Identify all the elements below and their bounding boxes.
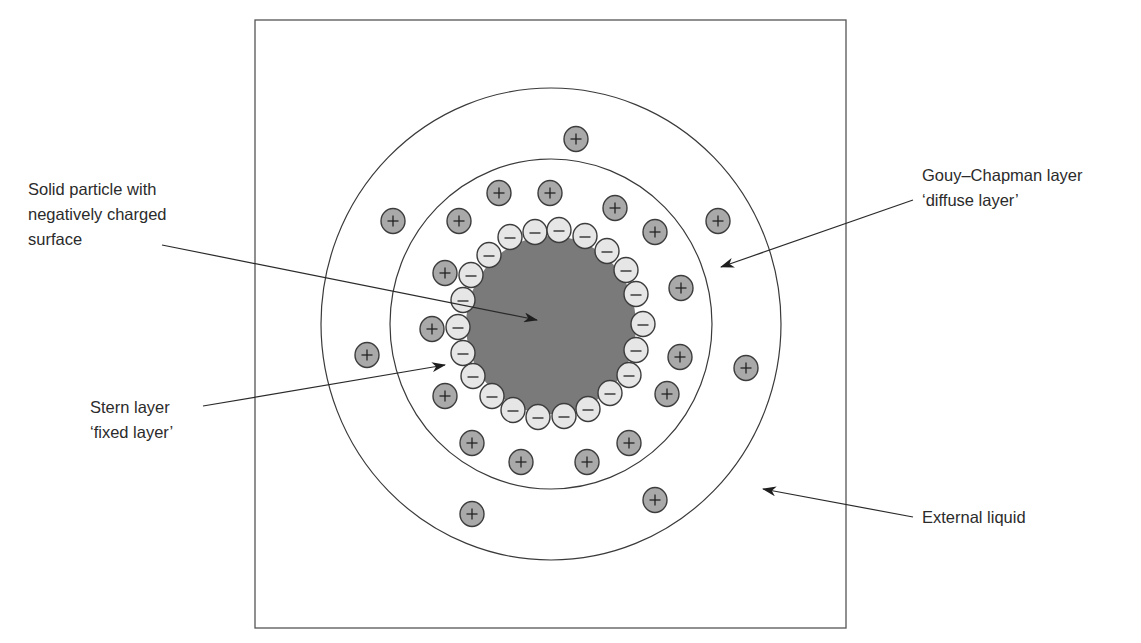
cation-icon xyxy=(381,209,405,234)
cation-icon xyxy=(460,431,484,456)
anion-icon xyxy=(480,384,504,409)
cation-icon xyxy=(617,431,641,456)
cation-icon xyxy=(433,261,457,286)
anion-icon xyxy=(446,315,470,340)
anion-icon xyxy=(576,397,600,422)
anion-icon xyxy=(573,224,597,249)
arrow-gouy-chapman-icon xyxy=(721,200,913,267)
arrow-external-liquid-icon xyxy=(763,489,913,517)
anion-icon xyxy=(498,225,522,250)
label-line: Solid particle with xyxy=(28,177,167,202)
cation-icon xyxy=(603,196,627,221)
cation-icon xyxy=(538,181,562,206)
anion-icon xyxy=(451,288,475,313)
anion-icon xyxy=(614,258,638,283)
label-external-liquid: External liquid xyxy=(922,505,1026,530)
label-line: External liquid xyxy=(922,505,1026,530)
cation-icon xyxy=(460,502,484,527)
label-line: Stern layer xyxy=(90,395,173,420)
anion-icon xyxy=(526,405,550,430)
label-line: negatively charged xyxy=(28,202,167,227)
cation-icon xyxy=(706,209,730,234)
anion-icon xyxy=(631,312,655,337)
anion-icon xyxy=(624,282,648,307)
cation-icon xyxy=(355,343,379,368)
anion-icon xyxy=(477,243,501,268)
arrow-stern-layer-icon xyxy=(203,365,445,406)
cation-icon xyxy=(669,276,693,301)
anion-icon xyxy=(547,218,571,243)
anion-icon xyxy=(501,398,525,423)
double-layer-diagram xyxy=(0,0,1141,643)
label-solid-particle: Solid particle with negatively charged s… xyxy=(28,177,167,252)
cation-icon xyxy=(447,209,471,234)
anion-icon xyxy=(523,220,547,245)
cation-icon xyxy=(564,127,588,152)
cation-icon xyxy=(668,345,692,370)
label-line: ‘diffuse layer’ xyxy=(922,188,1083,213)
cation-icon xyxy=(643,488,667,513)
anion-icon xyxy=(459,263,483,288)
cation-icon xyxy=(509,450,533,475)
anion-icon xyxy=(552,404,576,429)
cation-icon xyxy=(575,450,599,475)
anion-icon xyxy=(624,338,648,363)
cation-icon xyxy=(487,181,511,206)
cation-icon xyxy=(643,220,667,245)
cation-icon xyxy=(655,382,679,407)
label-gouy-chapman-layer: Gouy–Chapman layer ‘diffuse layer’ xyxy=(922,163,1083,213)
anion-icon xyxy=(595,239,619,264)
anion-icon xyxy=(617,363,641,388)
label-line: surface xyxy=(28,227,167,252)
label-stern-layer: Stern layer ‘fixed layer’ xyxy=(90,395,173,445)
cation-icon xyxy=(420,317,444,342)
anion-icon xyxy=(451,341,475,366)
label-line: ‘fixed layer’ xyxy=(90,420,173,445)
label-line: Gouy–Chapman layer xyxy=(922,163,1083,188)
anion-icon xyxy=(598,381,622,406)
cation-icon xyxy=(433,384,457,409)
cation-icon xyxy=(734,356,758,381)
anion-icon xyxy=(461,364,485,389)
